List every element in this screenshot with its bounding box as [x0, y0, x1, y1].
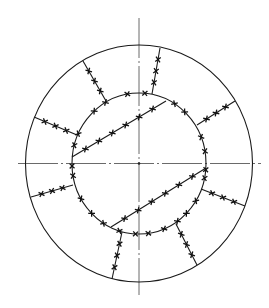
weld-mark-icon	[63, 127, 69, 133]
weld-mark-icon	[42, 118, 48, 124]
weld-mark-icon	[96, 138, 103, 145]
weld-mark-icon	[189, 252, 195, 258]
weld-mark-icon	[178, 231, 184, 237]
weld-mark-icon	[122, 122, 129, 129]
center-point	[138, 162, 141, 165]
weld-mark-icon	[60, 185, 66, 191]
weld-mark-icon	[78, 195, 85, 202]
weld-mark-icon	[213, 110, 220, 117]
weld-mark-icon	[193, 198, 200, 205]
weld-mark-icon	[171, 100, 178, 107]
weld-mark-icon	[100, 220, 107, 227]
weld-mark-icon	[222, 104, 229, 111]
weld-mark-icon	[39, 191, 45, 197]
weld-mark-icon	[136, 114, 143, 121]
weld-mark-icon	[121, 215, 128, 222]
weld-mark-icon	[209, 190, 215, 196]
weld-mark-icon	[220, 194, 226, 200]
weld-mark-icon	[161, 226, 167, 232]
weld-mark-icon	[75, 131, 81, 137]
weld-mark-icon	[97, 88, 104, 95]
weld-mark-icon	[102, 99, 109, 106]
weld-mark-icon	[148, 198, 155, 205]
weld-mark-icon	[85, 68, 92, 75]
weld-mark-icon	[162, 190, 169, 197]
weld-mark-icon	[189, 173, 196, 180]
weld-mark-icon	[91, 78, 98, 85]
weld-mark-icon	[203, 116, 210, 123]
weld-mark-icon	[82, 146, 89, 153]
weld-mark-icon	[198, 134, 204, 140]
weld-mark-icon	[231, 199, 237, 205]
weld-mark-icon	[149, 106, 156, 113]
weld-mark-icon	[49, 188, 55, 194]
weld-mark-icon	[183, 241, 189, 247]
weld-mark-icon	[135, 207, 142, 214]
weld-mark-icon	[52, 123, 58, 129]
annular-section-diagram	[0, 0, 269, 308]
weld-mark-icon	[109, 130, 116, 137]
weld-mark-icon	[176, 182, 183, 189]
